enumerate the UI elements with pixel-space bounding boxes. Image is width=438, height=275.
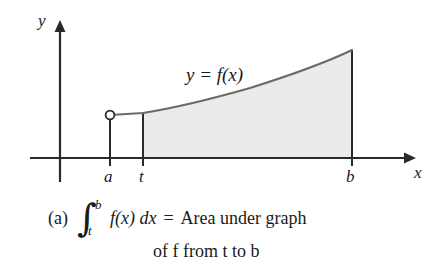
caption-line-1: (a) ∫ b t f(x) dx = Area under graph xyxy=(0,198,438,238)
integral-upper-limit: b xyxy=(95,197,102,213)
shaded-area-region xyxy=(143,50,352,158)
x-tick-label-b: b xyxy=(346,168,355,185)
integrand-expression: f(x) dx xyxy=(110,208,156,229)
integral-sign-icon: ∫ xyxy=(77,199,97,237)
caption-line-2: of f from t to b xyxy=(0,239,438,263)
x-axis-label: x xyxy=(414,164,422,181)
integral-lower-limit: t xyxy=(88,223,92,239)
equals-sign: = xyxy=(163,208,173,229)
x-tick-label-a: a xyxy=(104,168,113,185)
caption-result-line-2: of f from t to b xyxy=(153,241,259,262)
integral-expression: ∫ b t xyxy=(75,198,109,238)
y-axis-label: y xyxy=(38,12,46,29)
figure-part-label: (a) xyxy=(48,208,68,229)
y-axis-arrow-icon xyxy=(55,20,66,32)
curve-equation-label: y = f(x) xyxy=(186,65,243,84)
x-axis-arrow-icon xyxy=(404,153,416,164)
x-tick-label-t: t xyxy=(139,168,144,185)
figure-area-under-graph: y x a t b y = f(x) (a) ∫ b t f(x) dx = A… xyxy=(0,0,438,275)
caption-result-line-1: Area under graph xyxy=(181,208,307,229)
figure-caption: (a) ∫ b t f(x) dx = Area under graph of … xyxy=(0,198,438,263)
open-circle-point-a xyxy=(106,111,115,120)
